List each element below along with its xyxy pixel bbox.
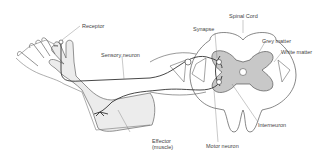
spinal-cord-label: Spinal Cord: [229, 13, 258, 19]
receptor-label: Receptor: [82, 23, 104, 29]
effector-label: Effector (muscle): [152, 138, 173, 150]
effector-label-line2: (muscle): [152, 144, 173, 150]
sensory-neuron-label: Sensory neuron: [101, 52, 140, 58]
white-matter-label: White matter: [281, 49, 312, 55]
grey-matter-label: Grey matter: [262, 38, 291, 44]
motor-neuron-label: Motor neuron: [206, 143, 239, 149]
interneuron-label: Interneuron: [258, 122, 286, 128]
synapse-label: Synapse: [193, 26, 214, 32]
spinal-cord-cross-section: [150, 33, 296, 133]
